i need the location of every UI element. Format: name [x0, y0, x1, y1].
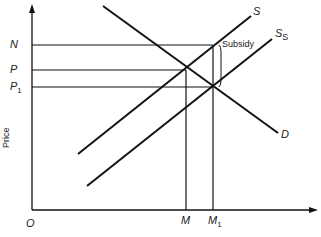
label-P1: P1	[10, 81, 22, 95]
y-axis-arrow	[29, 4, 35, 13]
subsidy-diagram	[0, 0, 321, 237]
label-P: P	[10, 64, 17, 75]
origin-label: O	[26, 218, 35, 229]
y-axis-label: Price	[2, 127, 11, 148]
label-S: S	[253, 6, 260, 17]
supply-curve-S	[78, 16, 251, 154]
label-M: M	[181, 215, 190, 226]
label-Ss: SS	[275, 28, 288, 42]
label-M1: M1	[208, 215, 222, 229]
label-N: N	[10, 39, 18, 50]
x-axis-arrow	[309, 207, 318, 213]
subsidy-label: Subsidy	[222, 40, 254, 49]
label-D: D	[281, 129, 289, 140]
